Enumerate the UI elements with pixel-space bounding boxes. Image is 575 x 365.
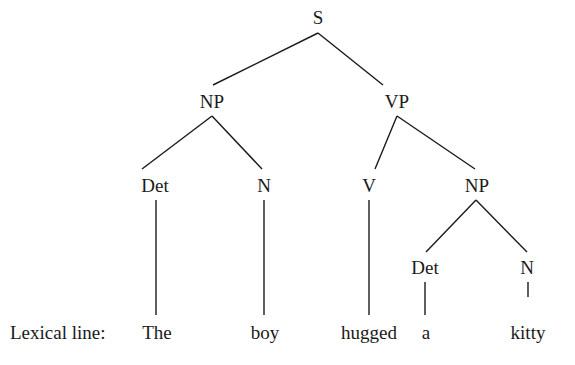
edge-NP1-Det1	[142, 116, 212, 169]
edge-NP1-N1	[212, 116, 262, 169]
edge-VP-NP2	[397, 116, 475, 169]
edge-NP2-N2	[476, 200, 527, 252]
edge-S-VP	[318, 33, 383, 85]
word-the: The	[142, 323, 172, 342]
node-N-object: N	[520, 258, 534, 277]
word-kitty: kitty	[511, 323, 546, 342]
word-a: a	[422, 323, 430, 342]
lexical-line-label: Lexical line:	[10, 323, 105, 342]
node-Det-object: Det	[411, 258, 438, 277]
word-hugged: hugged	[341, 323, 397, 342]
node-S: S	[313, 8, 324, 27]
edge-NP2-Det2	[426, 200, 476, 252]
node-N-subject: N	[257, 176, 271, 195]
node-Det-subject: Det	[141, 176, 168, 195]
node-VP: VP	[385, 92, 409, 111]
edge-VP-V	[375, 116, 397, 169]
edge-S-NP1	[213, 33, 318, 85]
word-boy: boy	[251, 323, 280, 342]
node-V: V	[362, 176, 376, 195]
node-NP-object: NP	[465, 176, 489, 195]
node-NP-subject: NP	[200, 92, 224, 111]
